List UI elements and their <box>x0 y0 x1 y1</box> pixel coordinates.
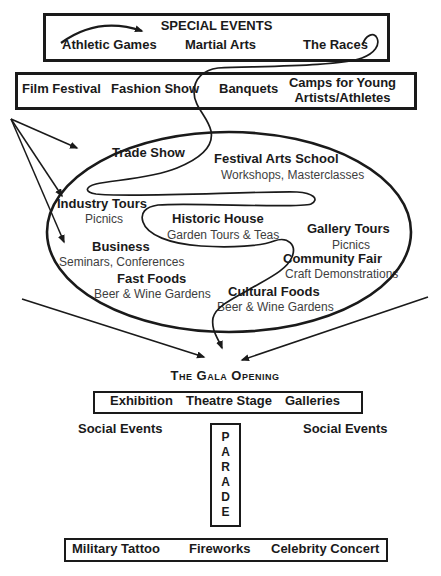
parade-letter: D <box>221 491 230 504</box>
sublabel-seminars-conferences: Seminars, Conferences <box>59 256 184 269</box>
label-fast-foods: Fast Foods <box>117 272 186 286</box>
label-gallery-tours: Gallery Tours <box>307 222 390 236</box>
sublabel-workshops-masterclasses: Workshops, Masterclasses <box>221 169 364 182</box>
label-social-events-left: Social Events <box>78 422 163 436</box>
label-martial-arts: Martial Arts <box>185 38 256 52</box>
camps-line-2: Artists/Athletes <box>294 90 390 105</box>
label-exhibition: Exhibition <box>110 394 173 408</box>
parade-letter: A <box>221 476 230 489</box>
label-athletic-games: Athletic Games <box>62 38 157 52</box>
sublabel-beer-wine-gardens-left: Beer & Wine Gardens <box>94 288 211 301</box>
label-gala-opening: The Gala Opening <box>125 369 325 383</box>
sublabel-beer-wine-gardens-right: Beer & Wine Gardens <box>217 301 334 314</box>
parade-letter: A <box>221 446 230 459</box>
special-events-title: SPECIAL EVENTS <box>43 19 390 33</box>
event-program-diagram: P A R A D E SPECIAL EVENTS Athletic Game… <box>0 0 441 576</box>
parade-letter: P <box>221 431 229 444</box>
label-celebrity-concert: Celebrity Concert <box>271 542 379 556</box>
label-military-tattoo: Military Tattoo <box>72 542 160 556</box>
sublabel-craft-demonstrations: Craft Demonstrations <box>285 268 398 281</box>
label-camps-for-young: Camps for YoungArtists/Athletes <box>285 75 400 105</box>
label-community-fair: Community Fair <box>283 252 382 266</box>
label-the-races: The Races <box>303 38 368 52</box>
label-industry-tours: Industry Tours <box>57 197 147 211</box>
sublabel-industry-picnics: Picnics <box>85 213 123 226</box>
sublabel-garden-tours-teas: Garden Tours & Teas <box>167 229 279 242</box>
camps-line-1: Camps for Young <box>289 75 396 90</box>
label-cultural-foods: Cultural Foods <box>228 285 320 299</box>
label-theatre-stage: Theatre Stage <box>186 394 272 408</box>
parade-letter: R <box>221 461 230 474</box>
label-business: Business <box>92 240 150 254</box>
fan-arrow-to-industry-tours <box>11 119 62 196</box>
label-fashion-show: Fashion Show <box>111 82 199 96</box>
label-social-events-right: Social Events <box>303 422 388 436</box>
label-fireworks: Fireworks <box>189 542 250 556</box>
parade-box: P A R A D E <box>210 423 241 527</box>
label-historic-house: Historic House <box>172 212 264 226</box>
left-arrow-to-gala <box>22 299 204 357</box>
label-festival-arts-school: Festival Arts School <box>214 152 339 166</box>
label-galleries: Galleries <box>285 394 340 408</box>
label-banquets: Banquets <box>219 82 278 96</box>
parade-letter: E <box>221 506 229 519</box>
fan-arrow-to-business <box>11 119 64 242</box>
label-trade-show: Trade Show <box>112 146 185 160</box>
fan-arrow-to-trade-show <box>11 119 77 148</box>
label-film-festival: Film Festival <box>22 82 101 96</box>
